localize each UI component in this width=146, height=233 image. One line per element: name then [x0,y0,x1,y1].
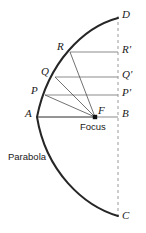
point-label-C: C [122,210,129,221]
point-label-P-prime: P' [122,87,131,98]
parabola-figure: D R R' Q Q' P P' A F B C Focus Parabola [0,0,146,233]
point-label-P: P [31,85,38,96]
focus-point-marker [93,115,97,119]
point-label-A: A [25,108,32,119]
point-label-F: F [98,105,105,116]
point-label-R: R [57,41,64,52]
focus-annotation-label: Focus [80,122,106,132]
parabola-annotation-label: Parabola [8,152,46,162]
ray-focus-to-Q [55,77,95,117]
point-label-Q-prime: Q' [122,69,132,80]
point-label-D: D [122,9,130,20]
point-label-R-prime: R' [122,44,131,55]
point-label-B: B [122,108,129,119]
point-label-Q: Q [41,66,49,77]
